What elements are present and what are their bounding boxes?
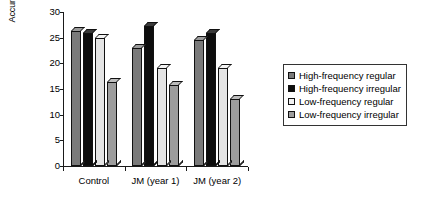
bar-front-face [206,33,216,166]
legend-item-low-frequency-regular: Low-frequency regular [288,95,401,108]
bar-front-face [218,68,228,166]
bar-side-face [117,160,121,166]
x-axis-tick-mark [63,167,64,171]
legend-label-low-frequency-regular: Low-frequency regular [299,97,394,107]
bar-side-face [179,160,183,166]
legend-swatch-icon-low-frequency-irregular [288,111,295,118]
bar [83,33,93,166]
bar-front-face [169,85,179,166]
bar-side-face [240,160,244,166]
bar-front-face [95,38,105,166]
y-axis-title: Accuracy (no. of words read correctly) [2,0,46,18]
x-axis-tick-mark [125,167,126,171]
y-axis-tick-label: 25 [49,33,60,43]
bar-front-face [107,82,117,166]
bar-front-face [132,48,142,166]
bar [169,85,179,166]
bar [71,31,81,166]
bar-front-face [144,26,154,166]
bar-front-face [194,40,204,166]
bar [95,38,105,166]
y-axis-tick-label: 30 [49,7,60,17]
x-axis-line [63,166,248,167]
legend-label-high-frequency-irregular: High-frequency irregular [299,84,401,94]
legend-swatch-icon-low-frequency-regular [288,98,295,105]
y-axis-title-line-1: Accuracy [7,0,17,22]
legend-swatch-icon-high-frequency-regular [288,72,295,79]
bar [218,68,228,166]
legend-label-low-frequency-irregular: Low-frequency irregular [299,110,399,120]
bar-front-face [71,31,81,166]
x-axis-tick-mark [186,167,187,171]
bar-group [125,12,187,166]
legend-item-low-frequency-irregular: Low-frequency irregular [288,108,401,121]
bar [194,40,204,166]
bar [107,82,117,166]
bar [157,68,167,166]
y-axis-tick-label: 15 [49,84,60,94]
bar [206,33,216,166]
bar [144,26,154,166]
legend-item-high-frequency-regular: High-frequency regular [288,69,401,82]
bar-chart-figure: Accuracy (no. of words read correctly) 0… [0,0,426,202]
legend-label-high-frequency-regular: High-frequency regular [299,71,396,81]
bar-front-face [83,33,93,166]
x-axis-tick-mark [248,167,249,171]
x-axis-category-label: JM (year 2) [193,176,241,186]
y-axis-tick-label: 10 [49,110,60,120]
plot-area: 051015202530 [63,12,248,167]
bar-front-face [157,68,167,166]
legend-item-high-frequency-irregular: High-frequency irregular [288,82,401,95]
legend-swatch-icon-high-frequency-irregular [288,85,295,92]
bar-group [63,12,125,166]
x-axis-category-label: Control [79,176,110,186]
bar-group [186,12,248,166]
chart-legend: High-frequency regular High-frequency ir… [283,64,407,126]
y-axis-tick-label: 20 [49,59,60,69]
bar-front-face [230,99,240,166]
x-axis-category-label: JM (year 1) [131,176,179,186]
bar [230,99,240,166]
bar [132,48,142,166]
